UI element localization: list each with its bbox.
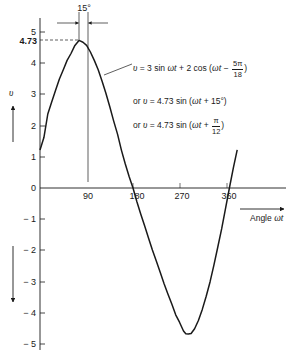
eq1-close: ): [244, 63, 247, 73]
eq1-mid: = 3 sin: [137, 63, 167, 73]
y-tick-minus-1: − 1: [23, 214, 36, 224]
eq1-omega-t-2: ωt: [212, 63, 221, 73]
eq1-minus: −: [221, 63, 231, 73]
eq2-tail: + 15°): [201, 96, 226, 106]
eq2-or: or: [133, 96, 143, 106]
y-tick-2: 2: [31, 121, 36, 131]
x-axis-symbol: ωt: [274, 213, 283, 223]
x-axis-name: Angle: [250, 213, 272, 223]
eq3-or: or: [133, 120, 143, 130]
y-axis-symbol: υ: [9, 88, 13, 98]
y-tick-minus-2: − 2: [23, 245, 36, 255]
y-axis-label: υ: [9, 88, 13, 98]
equation-leader-line: [104, 64, 132, 75]
y-tick-minus-3: − 3: [23, 277, 36, 287]
y-tick-minus-4: − 4: [23, 308, 36, 318]
equation-3: or υ = 4.73 sin (ωt + π12): [133, 117, 224, 135]
equation-2: or υ = 4.73 sin (ωt + 15°): [133, 97, 227, 107]
eq1-frac-den: 18: [232, 70, 243, 79]
y-tick-3: 3: [31, 89, 36, 99]
voltage-waveform: [40, 40, 237, 334]
eq3-frac-num: π: [212, 117, 220, 127]
x-tick-90: 90: [83, 191, 93, 201]
eq1-mid2: + 2 cos (: [177, 63, 212, 73]
x-tick-270: 270: [174, 191, 189, 201]
eq3-fraction: π12: [212, 117, 220, 135]
y-tick-1: 1: [31, 152, 36, 162]
equation-1: υ = 3 sin ωt + 2 cos (ωt − 5π18): [133, 60, 247, 78]
eq1-fraction: 5π18: [232, 60, 243, 78]
y-tick-4: 4: [31, 58, 36, 68]
sine-wave-chart: 5 4.73 4 3 2 1 0 − 1 − 2 − 3 − 4 − 5 90 …: [0, 0, 290, 358]
eq2-omega-t: ωt: [192, 96, 201, 106]
y-tick-0: 0: [31, 183, 36, 193]
phase-shift-label: 15°: [77, 3, 91, 13]
eq3-close: ): [221, 120, 224, 130]
eq3-mid: = 4.73 sin (: [147, 120, 192, 130]
x-axis-label: Angle ωt: [250, 213, 283, 223]
y-tick-minus-5: − 5: [23, 339, 36, 349]
eq1-omega-t: ωt: [167, 63, 176, 73]
x-ticks: [133, 183, 227, 188]
eq2-mid: = 4.73 sin (: [147, 96, 192, 106]
eq3-omega-t: ωt: [192, 120, 201, 130]
eq3-plus: +: [201, 120, 211, 130]
eq3-frac-den: 12: [212, 127, 220, 136]
eq1-frac-num: 5π: [232, 60, 243, 70]
y-tick-4.73: 4.73: [19, 36, 37, 46]
